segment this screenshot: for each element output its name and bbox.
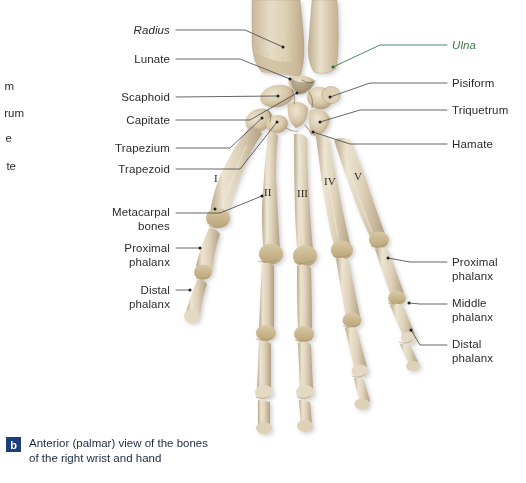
numeral-metacarpal-i: I [214,172,218,184]
numeral-metacarpal-v: V [354,170,362,182]
edge-fragment: te [0,160,16,172]
edge-fragment: m [0,80,14,92]
caption-badge: b [6,437,21,452]
numeral-metacarpal-ii: II [264,186,271,198]
label-radius: Radius [60,24,170,38]
label-middle-phalanx-right: Middle phalanx [452,297,526,324]
label-distal-phalanx-left: Distal phalanx [60,284,170,311]
label-hamate: Hamate [452,138,526,152]
label-distal-phalanx-right: Distal phalanx [452,338,526,365]
label-proximal-phalanx-right: Proximal phalanx [452,256,526,283]
label-triquetrum: Triquetrum [452,104,526,118]
edge-fragment: e [0,132,12,144]
label-ulna: Ulna [452,39,526,53]
label-trapezium: Trapezium [60,142,170,156]
label-proximal-phalanx-left: Proximal phalanx [60,242,170,269]
label-trapezoid: Trapezoid [60,163,170,177]
anatomical-figure: m rum e te Radius Lunate Scaphoid Capita… [0,0,526,483]
label-scaphoid: Scaphoid [60,91,170,105]
figure-caption: b Anterior (palmar) view of the bones of… [6,436,208,466]
caption-text: Anterior (palmar) view of the bones of t… [29,436,208,466]
numeral-metacarpal-iii: III [297,187,308,199]
edge-fragment: rum [0,107,24,119]
label-pisiform: Pisiform [452,77,526,91]
label-capitate: Capitate [60,114,170,128]
numeral-metacarpal-iv: IV [324,175,336,187]
label-metacarpal-bones: Metacarpal bones [60,206,170,233]
label-lunate: Lunate [60,53,170,67]
